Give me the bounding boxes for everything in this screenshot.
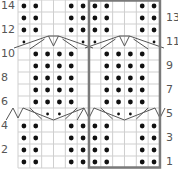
purl-dot — [92, 28, 97, 33]
row-number: 10 — [1, 48, 15, 60]
purl-dot — [81, 148, 86, 153]
purl-dot — [140, 148, 145, 153]
purl-dot — [92, 16, 97, 21]
purl-dot — [116, 88, 121, 93]
purl-dot — [140, 4, 145, 9]
purl-dot — [128, 100, 133, 105]
row-number: 3 — [166, 132, 173, 144]
purl-dot — [152, 124, 157, 129]
purl-dot — [140, 88, 145, 93]
row-number: 1 — [166, 156, 173, 168]
row-number: 7 — [166, 84, 173, 96]
purl-dot — [152, 28, 157, 33]
small-dot — [117, 113, 120, 116]
purl-dot — [104, 88, 109, 93]
purl-dot — [33, 52, 38, 57]
purl-dot — [81, 124, 86, 129]
purl-dot — [69, 4, 74, 9]
purl-dot — [81, 4, 86, 9]
purl-dot — [128, 64, 133, 69]
purl-dot — [140, 16, 145, 21]
row-number: 4 — [1, 120, 8, 132]
purl-dot — [104, 76, 109, 81]
purl-dot — [104, 160, 109, 165]
purl-dot — [45, 64, 50, 69]
purl-dot — [104, 64, 109, 69]
row-number: 11 — [166, 36, 178, 48]
purl-dot — [69, 88, 74, 93]
purl-dot — [81, 16, 86, 21]
purl-dot — [152, 148, 157, 153]
purl-dot — [69, 28, 74, 33]
purl-dot — [69, 52, 74, 57]
small-dot — [153, 41, 156, 44]
purl-dot — [104, 148, 109, 153]
purl-dot — [92, 4, 97, 9]
row-number: 12 — [1, 24, 15, 36]
purl-dot — [45, 100, 50, 105]
row-number: 9 — [166, 60, 173, 72]
purl-dot — [104, 4, 109, 9]
purl-dot — [140, 136, 145, 141]
purl-dot — [104, 52, 109, 57]
purl-dot — [92, 160, 97, 165]
purl-dot — [140, 124, 145, 129]
cable-line — [101, 108, 113, 119]
purl-dot — [140, 76, 145, 81]
purl-dot — [104, 28, 109, 33]
purl-dot — [45, 88, 50, 93]
purl-dot — [152, 16, 157, 21]
purl-dot — [104, 136, 109, 141]
purl-dot — [45, 76, 50, 81]
knitting-chart — [0, 0, 178, 170]
purl-dot — [116, 100, 121, 105]
purl-dot — [140, 52, 145, 57]
small-dot — [82, 41, 85, 44]
purl-dot — [57, 76, 62, 81]
purl-dot — [57, 64, 62, 69]
small-dot — [129, 113, 132, 116]
purl-dot — [33, 16, 38, 21]
purl-dot — [92, 124, 97, 129]
purl-dot — [81, 160, 86, 165]
purl-dot — [33, 160, 38, 165]
purl-dot — [57, 52, 62, 57]
row-number: 6 — [1, 96, 8, 108]
purl-dot — [152, 4, 157, 9]
cable-line — [65, 108, 77, 119]
purl-dot — [69, 64, 74, 69]
purl-dot — [69, 100, 74, 105]
cable-line — [30, 108, 42, 119]
purl-dot — [128, 88, 133, 93]
purl-dot — [22, 160, 27, 165]
purl-dot — [33, 88, 38, 93]
purl-dot — [69, 160, 74, 165]
cable-line — [14, 36, 48, 48]
purl-dot — [128, 52, 133, 57]
purl-dot — [69, 76, 74, 81]
purl-dot — [140, 160, 145, 165]
purl-dot — [22, 148, 27, 153]
purl-dot — [69, 16, 74, 21]
purl-dot — [152, 136, 157, 141]
small-dot — [93, 41, 96, 44]
cable-line — [136, 108, 148, 119]
purl-dot — [33, 148, 38, 153]
purl-dot — [33, 100, 38, 105]
purl-dot — [33, 136, 38, 141]
purl-dot — [22, 124, 27, 129]
purl-dot — [116, 52, 121, 57]
purl-dot — [22, 28, 27, 33]
purl-dot — [45, 52, 50, 57]
purl-dot — [92, 148, 97, 153]
purl-dot — [69, 148, 74, 153]
small-dot — [23, 41, 26, 44]
purl-dot — [140, 100, 145, 105]
purl-dot — [116, 76, 121, 81]
purl-dot — [92, 136, 97, 141]
purl-dot — [22, 16, 27, 21]
row-number: 5 — [166, 108, 173, 120]
purl-dot — [140, 28, 145, 33]
small-dot — [58, 113, 61, 116]
purl-dot — [81, 136, 86, 141]
